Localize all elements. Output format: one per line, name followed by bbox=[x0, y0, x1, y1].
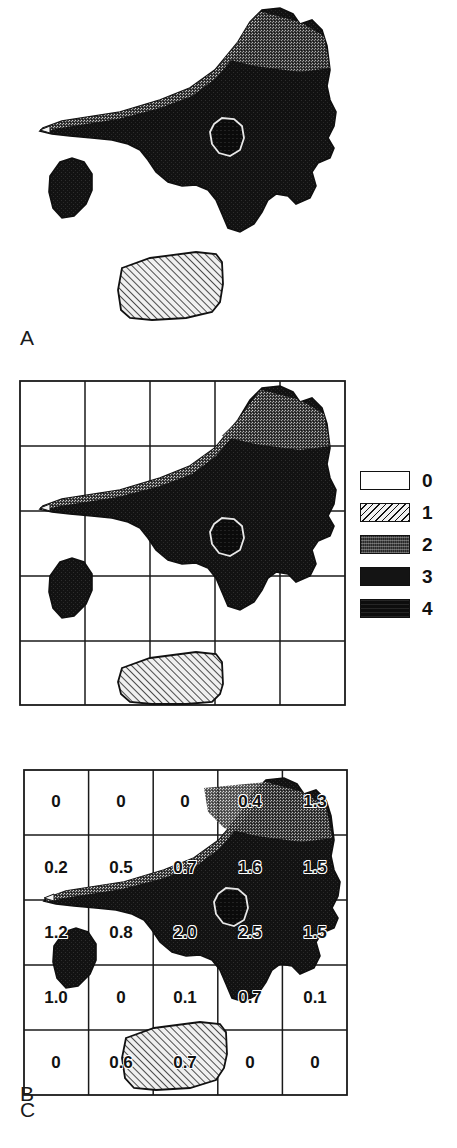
legend-item-2: 2 bbox=[360, 530, 455, 558]
cell-value-r4c2: 0 bbox=[116, 988, 125, 1008]
cell-value-r5c1: 0 bbox=[51, 1053, 60, 1073]
cell-value-r5c4: 0 bbox=[245, 1053, 254, 1073]
cell-value-r3c3: 2.0 bbox=[173, 923, 197, 943]
cell-value-r5c5: 0 bbox=[310, 1053, 319, 1073]
lesion-hatched-a bbox=[118, 252, 223, 320]
legend-label-1: 1 bbox=[422, 503, 433, 522]
legend-swatch-1 bbox=[360, 503, 410, 522]
cell-value-r1c2: 0 bbox=[116, 792, 125, 812]
cell-value-r3c2: 0.8 bbox=[109, 923, 133, 943]
legend-item-4: 4 bbox=[360, 594, 455, 622]
legend-label-0: 0 bbox=[422, 471, 433, 490]
cell-value-r4c4: 0.7 bbox=[238, 988, 262, 1008]
panel-label-a: A bbox=[20, 326, 35, 350]
cell-value-r4c5: 0.1 bbox=[303, 988, 327, 1008]
cell-value-r3c1: 1.2 bbox=[44, 923, 68, 943]
legend-label-3: 3 bbox=[422, 567, 433, 586]
panel-a: A bbox=[0, 0, 457, 372]
cell-value-r3c4: 2.5 bbox=[238, 923, 262, 943]
legend-swatch-3 bbox=[360, 567, 410, 586]
cell-value-r1c5: 1.3 bbox=[303, 792, 327, 812]
legend-item-0: 0 bbox=[360, 466, 455, 494]
legend-label-4: 4 bbox=[422, 599, 433, 618]
legend-label-2: 2 bbox=[422, 535, 433, 554]
panel-c-drawing bbox=[0, 744, 457, 1148]
panel-c: 0 0 0 0.4 1.3 0.2 0.5 0.7 1.6 1.5 1.2 0.… bbox=[0, 744, 457, 1148]
cell-value-r2c2: 0.5 bbox=[109, 858, 133, 878]
cell-value-r2c4: 1.6 bbox=[238, 858, 262, 878]
cell-value-r2c3: 0.7 bbox=[173, 858, 197, 878]
cell-value-r2c1: 0.2 bbox=[44, 858, 68, 878]
cell-value-r3c5: 1.5 bbox=[303, 923, 327, 943]
cell-value-r4c3: 0.1 bbox=[173, 988, 197, 1008]
panel-label-c: C bbox=[20, 1098, 36, 1122]
cell-value-r1c4: 0.4 bbox=[238, 792, 262, 812]
lesion-satellite-a bbox=[49, 158, 92, 218]
legend-swatch-0 bbox=[360, 471, 410, 490]
cell-value-r4c1: 1.0 bbox=[44, 988, 68, 1008]
legend-item-3: 3 bbox=[360, 562, 455, 590]
cell-value-r1c3: 0 bbox=[180, 792, 189, 812]
legend: 0 1 2 3 4 bbox=[360, 466, 455, 626]
legend-item-1: 1 bbox=[360, 498, 455, 526]
cell-value-r2c5: 1.5 bbox=[303, 858, 327, 878]
figure-root: A bbox=[0, 0, 457, 1148]
cell-value-r5c3: 0.7 bbox=[173, 1053, 197, 1073]
cell-value-r5c2: 0.6 bbox=[109, 1053, 133, 1073]
legend-swatch-2 bbox=[360, 535, 410, 554]
panel-a-drawing bbox=[0, 0, 457, 372]
cell-value-r1c1: 0 bbox=[51, 792, 60, 812]
legend-swatch-4 bbox=[360, 599, 410, 618]
lesion-hatched-b bbox=[118, 652, 223, 704]
